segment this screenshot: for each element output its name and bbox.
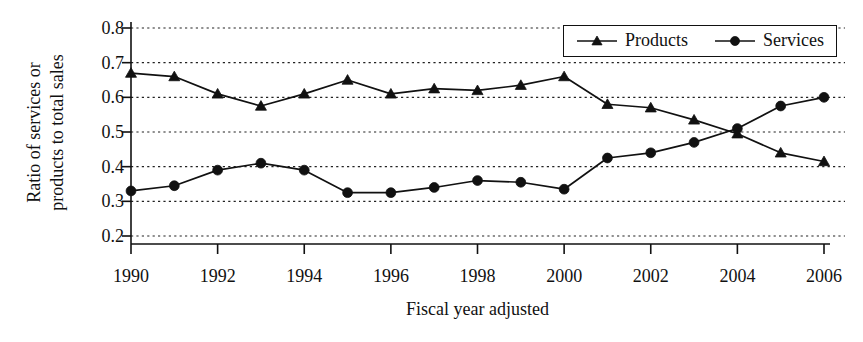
circle-marker bbox=[730, 36, 739, 45]
triangle-marker bbox=[602, 99, 613, 109]
triangle-marker bbox=[212, 88, 223, 98]
x-axis-tick-label: 1990 bbox=[113, 266, 149, 287]
legend-label: Products bbox=[625, 30, 688, 51]
circle-marker bbox=[169, 181, 179, 191]
circle-marker bbox=[603, 153, 613, 163]
circle-marker bbox=[429, 183, 439, 193]
x-axis-tick-label: 2004 bbox=[719, 266, 755, 287]
x-axis-tick-label: 1998 bbox=[460, 266, 496, 287]
data-series-layer bbox=[125, 68, 829, 198]
x-axis-tick-label: 1994 bbox=[286, 266, 322, 287]
chart-figure: Ratio of services or products to total s… bbox=[0, 0, 863, 342]
circle-marker bbox=[473, 176, 483, 186]
x-axis-title: Fiscal year adjusted bbox=[131, 299, 824, 320]
circle-marker bbox=[776, 101, 786, 111]
circle-marker bbox=[256, 158, 266, 168]
circle-marker bbox=[126, 186, 136, 196]
triangle-marker bbox=[576, 33, 618, 49]
circle-marker bbox=[299, 165, 309, 175]
x-axis-tick-label: 2002 bbox=[633, 266, 669, 287]
legend-label: Services bbox=[763, 30, 824, 51]
legend-item-services[interactable]: Services bbox=[714, 30, 824, 51]
circle-marker bbox=[343, 188, 353, 198]
chart-legend: ProductsServices bbox=[563, 25, 837, 57]
triangle-marker bbox=[125, 68, 136, 78]
x-axis-tick-label: 1996 bbox=[373, 266, 409, 287]
circle-marker bbox=[689, 138, 699, 148]
y-axis-ticks bbox=[122, 28, 131, 236]
legend-item-products[interactable]: Products bbox=[576, 30, 688, 51]
triangle-marker bbox=[342, 75, 353, 85]
x-axis-tick-label: 2006 bbox=[806, 266, 842, 287]
circle-marker bbox=[386, 188, 396, 198]
series-products bbox=[125, 68, 829, 166]
triangle-marker bbox=[775, 147, 786, 157]
triangle-marker bbox=[559, 71, 570, 81]
circle-marker bbox=[819, 92, 829, 102]
x-axis-tick-label: 1992 bbox=[200, 266, 236, 287]
circle-marker bbox=[559, 184, 569, 194]
circle-marker bbox=[516, 177, 526, 187]
circle-marker bbox=[732, 124, 742, 134]
x-axis-tick-label: 2000 bbox=[546, 266, 582, 287]
circle-marker bbox=[646, 148, 656, 158]
series-services bbox=[126, 92, 829, 197]
circle-marker bbox=[714, 33, 756, 49]
x-axis-ticks bbox=[131, 244, 824, 254]
circle-marker bbox=[213, 165, 223, 175]
